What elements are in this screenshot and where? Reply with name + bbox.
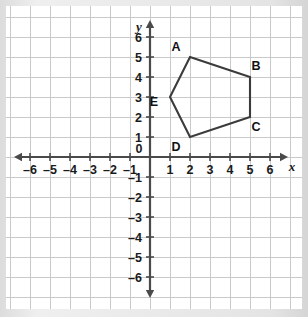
x-tick-label: –6 <box>23 163 37 177</box>
vertex-label-e: E <box>150 95 158 109</box>
vertex-label-c: C <box>251 120 260 134</box>
y-tick-label: 4 <box>135 71 142 85</box>
x-tick-label: –4 <box>63 163 77 177</box>
coordinate-grid-svg: –6–5–4–3–2–10123456–6–5–4–3–2–1123456 xy… <box>6 6 302 309</box>
x-tick-label: 4 <box>227 163 234 177</box>
y-tick-label: –2 <box>128 191 142 205</box>
x-tick-label: 2 <box>187 163 194 177</box>
vertex-label-b: B <box>251 59 260 73</box>
y-tick-label: 1 <box>135 131 142 145</box>
y-tick-label: –3 <box>128 211 142 225</box>
x-tick-label: –5 <box>43 163 57 177</box>
x-tick-label: 3 <box>207 163 214 177</box>
y-axis-label: y <box>134 19 142 34</box>
y-tick-label: –4 <box>128 231 142 245</box>
y-tick-label: –6 <box>128 271 142 285</box>
x-tick-label: –3 <box>83 163 97 177</box>
x-tick-label: 5 <box>247 163 254 177</box>
plot-area: –6–5–4–3–2–10123456–6–5–4–3–2–1123456 xy… <box>6 6 302 309</box>
y-tick-label: 3 <box>135 91 142 105</box>
axis-name-labels: xy <box>134 19 296 174</box>
vertex-label-a: A <box>171 40 180 54</box>
vertex-label-d: D <box>171 140 180 154</box>
x-tick-label: 1 <box>167 163 174 177</box>
y-tick-label: –1 <box>128 171 142 185</box>
x-tick-label: –2 <box>103 163 117 177</box>
y-tick-label: 5 <box>135 51 142 65</box>
x-axis-label: x <box>288 159 296 174</box>
y-tick-label: –5 <box>128 251 142 265</box>
x-tick-label: 6 <box>267 163 274 177</box>
coordinate-plane-figure: –6–5–4–3–2–10123456–6–5–4–3–2–1123456 xy… <box>0 0 308 317</box>
y-tick-label: 2 <box>135 111 142 125</box>
